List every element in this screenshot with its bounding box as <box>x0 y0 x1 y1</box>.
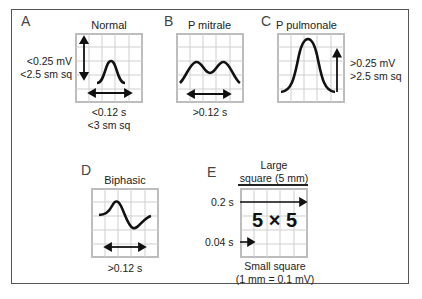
small-square-label: Small square (1 mm = 0.1 mV) <box>225 260 325 286</box>
panel-title: Normal <box>78 19 140 31</box>
panel-letter: E <box>207 164 216 180</box>
grid-size-label: 5 × 5 <box>252 209 297 232</box>
panel-letter: B <box>164 13 173 29</box>
panel-title: Biphasic <box>91 174 159 186</box>
amplitude-label: >0.25 mV >2.5 sm sq <box>350 57 410 83</box>
large-time-label: 0.2 s <box>211 196 234 209</box>
ecg-grid <box>75 33 143 103</box>
large-square-underline <box>238 184 308 186</box>
small-time-label: 0.04 s <box>205 236 234 249</box>
duration-label: >0.12 s <box>91 262 159 275</box>
panel-letter: A <box>21 13 30 29</box>
amplitude-label: <0.25 mV <2.5 sm sq <box>14 55 72 81</box>
panel-title: P mitrale <box>176 19 243 31</box>
ecg-grid <box>91 188 159 258</box>
panel-letter: C <box>261 13 271 29</box>
panel-letter: D <box>81 162 91 178</box>
large-square-label: Large square (5 mm) <box>232 159 316 185</box>
ecg-grid <box>176 33 244 103</box>
duration-label: <0.12 s <3 sm sq <box>75 106 143 132</box>
panel-title: P pulmonale <box>276 19 348 31</box>
ecg-grid <box>277 33 345 103</box>
duration-label: >0.12 s <box>176 106 244 119</box>
